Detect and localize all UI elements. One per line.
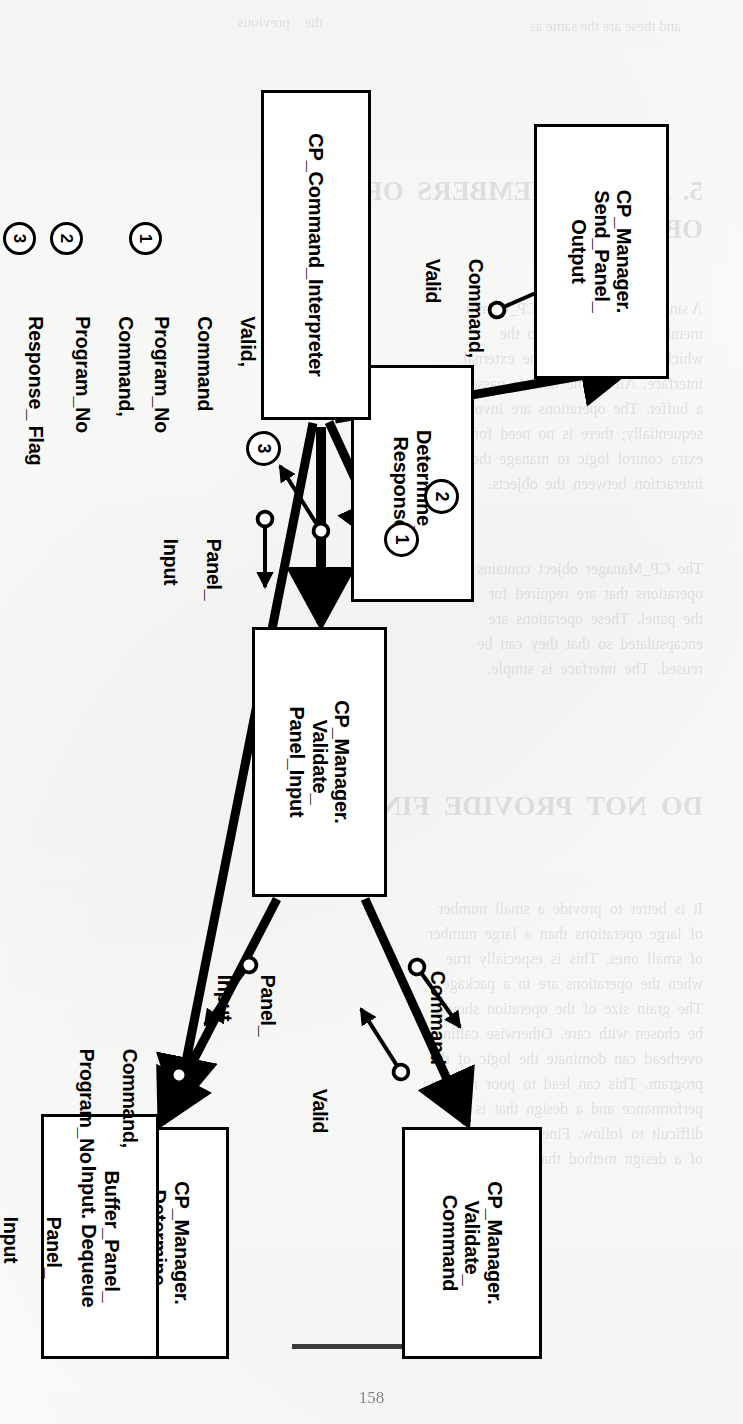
label-line: Command, <box>118 1049 140 1148</box>
label-line: Program_No <box>75 1049 97 1164</box>
label-line: Input <box>0 1217 21 1264</box>
flow-label-panel-input-left: Panel_ Input <box>137 497 244 600</box>
flow-label-valid: Valid <box>286 1047 350 1133</box>
box-line: Panel_Input <box>285 694 308 829</box>
label-line: Command, <box>464 259 486 358</box>
box-validate-command[interactable]: CP_Manager.Validate_Command <box>402 1127 542 1359</box>
box-line: Command <box>438 1175 461 1310</box>
legend-number-text: 3 <box>10 234 27 243</box>
box-line: CP_Manager. <box>483 1175 506 1310</box>
box-line: Output <box>567 184 590 319</box>
flow-label-panel-input-bottom: Panel_ Input <box>0 1175 85 1278</box>
callout-1: 1 <box>384 522 419 557</box>
legend-number-3: 3 <box>2 222 35 255</box>
label-line: Input <box>213 975 235 1022</box>
box-send-panel-output[interactable]: CP_Manager.Send_Panel_Output <box>534 124 669 379</box>
legend-line: Command, <box>114 316 136 417</box>
box-line: Validate_ <box>308 694 331 829</box>
box-line: CP_Manager. <box>612 184 635 319</box>
bleed-line: and these are the same as <box>530 18 681 35</box>
scanned-page: and these are the same asthe previous5. … <box>0 0 743 1424</box>
box-validate-panel-input[interactable]: CP_Manager.Validate_Panel_Input <box>252 627 387 897</box>
callout-number: 3 <box>253 443 274 453</box>
flow-label-command-program-no: Command, Program_No <box>53 1007 160 1164</box>
label-line: Valid <box>308 1089 330 1134</box>
label-line: Panel_ <box>42 1217 64 1279</box>
box-line: Send_Panel_ <box>590 184 613 319</box>
flow-label-command: Command <box>404 929 468 1065</box>
callout-2: 2 <box>424 479 459 514</box>
legend-line: Valid, <box>236 316 258 367</box>
page-number: 158 <box>0 1388 743 1408</box>
box-line: Buffer_Panel_ <box>100 1160 123 1314</box>
box-line: CP_Command_Interpreter <box>304 127 327 382</box>
box-line: CP_Manager. <box>330 694 353 829</box>
flow-label-panel-input-right: Panel_ Input <box>191 933 298 1036</box>
label-line: Command <box>426 971 448 1065</box>
callout-number: 2 <box>431 491 452 501</box>
legend-item-3: 3 Response_ Flag <box>2 222 66 466</box>
flow-label-command-valid: Command, Valid <box>399 217 506 358</box>
box-line: CP_Manager. <box>170 1175 193 1310</box>
structure-chart-figure: CP_Manager.Send_Panel_Output Determine_R… <box>27 67 717 1357</box>
box-line: Validate_ <box>460 1175 483 1310</box>
bleed-line: the previous <box>238 14 323 31</box>
callout-number: 1 <box>391 534 412 544</box>
label-line: Input <box>159 539 181 586</box>
legend-line: Program_No <box>71 316 93 433</box>
legend-label-3: Response_ Flag <box>2 262 66 466</box>
label-line: Panel_ <box>202 539 224 601</box>
callout-3: 3 <box>246 431 281 466</box>
legend-line: Command <box>193 316 215 411</box>
figure-rotation-wrapper: CP_Manager.Send_Panel_Output Determine_R… <box>27 67 717 1357</box>
legend-line: Response_ Flag <box>24 316 46 466</box>
label-line: Valid <box>421 259 443 304</box>
label-line: Panel_ <box>256 975 278 1037</box>
